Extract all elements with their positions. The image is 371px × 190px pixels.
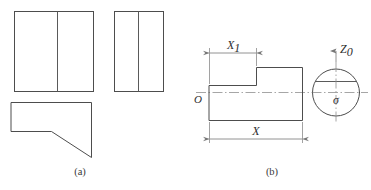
top-view bbox=[12, 103, 92, 158]
front-view bbox=[15, 12, 94, 92]
top-view-outline bbox=[12, 103, 92, 158]
panel-b-caption: (b) bbox=[266, 166, 279, 178]
x-dimension-label: X bbox=[251, 124, 260, 138]
z0-label-subscript: 0 bbox=[347, 45, 353, 59]
origin-label: O bbox=[194, 93, 202, 105]
side-view bbox=[115, 12, 164, 92]
cross-section-center-symbol: σ bbox=[333, 93, 340, 107]
z0-axis-label: Z0 bbox=[340, 42, 353, 59]
x1-dimension-label: X1 bbox=[226, 38, 240, 55]
technical-drawing-figure: (a) X1 X O bbox=[0, 0, 371, 190]
drawing-canvas: (a) X1 X O bbox=[0, 0, 371, 190]
stepped-shaft-profile bbox=[210, 68, 303, 121]
panel-a-group: (a) bbox=[12, 12, 164, 179]
panel-b-group: X1 X O Z0 σ bbox=[194, 38, 368, 178]
panel-a-caption: (a) bbox=[74, 166, 86, 178]
x1-label-subscript: 1 bbox=[234, 41, 240, 55]
end-cross-section: Z0 σ bbox=[313, 42, 360, 122]
front-view-outline bbox=[15, 12, 94, 92]
